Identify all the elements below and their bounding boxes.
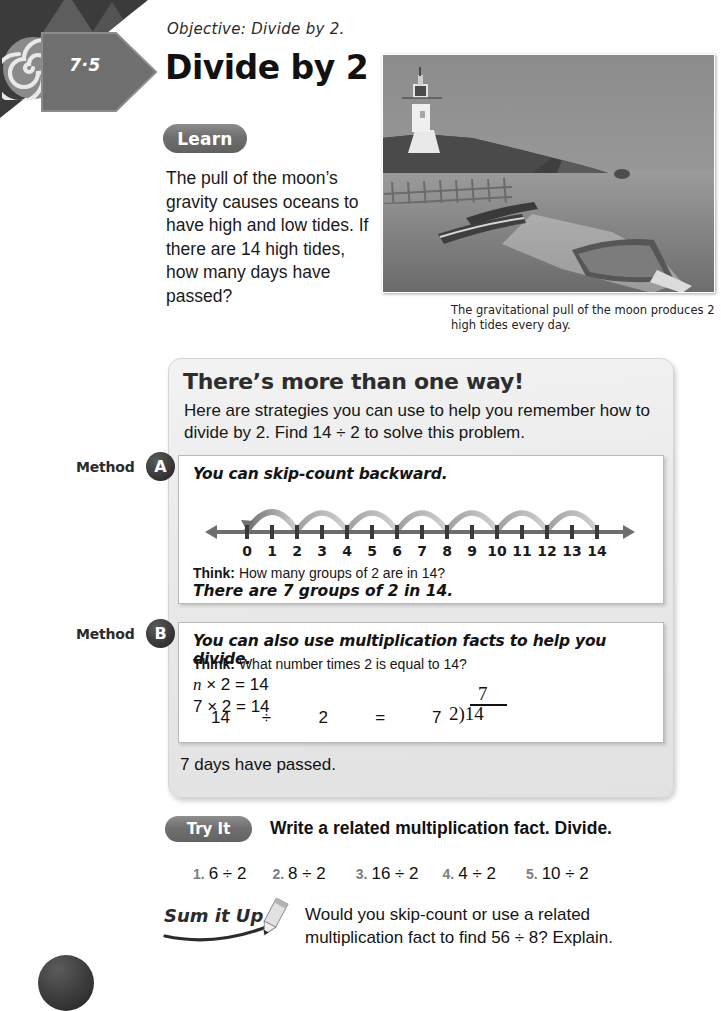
method-b-think-question: What number times 2 is equal to 14? [239, 656, 467, 672]
numberline-tick-2: 2 [292, 543, 302, 558]
method-b-think: Think: What number times 2 is equal to 1… [193, 656, 467, 672]
strategy-heading: There’s more than one way! [183, 369, 524, 394]
exercise-5-number: 5. [526, 866, 538, 882]
sentence-divisor: 2 [318, 708, 370, 728]
method-a-card: You can skip-count backward. [178, 455, 664, 604]
exercise-4-expression: 4 ÷ 2 [458, 864, 496, 883]
learn-badge: Learn [163, 124, 247, 153]
sum-it-up-logo-text: Sum it Up [164, 905, 263, 926]
strategy-answer: 7 days have passed. [180, 755, 336, 775]
numberline-tick-4: 4 [342, 543, 352, 558]
numberline-tick-8: 8 [442, 543, 452, 558]
exercise-4[interactable]: 4.4 ÷ 2 [443, 864, 496, 884]
numberline-tick-1: 1 [267, 543, 277, 558]
numberline-tick-12: 12 [537, 543, 556, 558]
numberline-tick-9: 9 [467, 543, 477, 558]
exercise-2-number: 2. [272, 866, 284, 882]
exercise-4-number: 4. [443, 866, 455, 882]
method-b-bullet: B [146, 619, 175, 648]
numberline-tick-10: 10 [487, 543, 507, 558]
method-a-label: Method [76, 459, 135, 475]
exercise-row: 1.6 ÷ 2 2.8 ÷ 2 3.16 ÷ 2 4.4 ÷ 2 5.10 ÷ … [193, 864, 663, 884]
exercise-5[interactable]: 5.10 ÷ 2 [526, 864, 589, 884]
sentence-dividend: 14 [211, 708, 257, 728]
exercise-1[interactable]: 1.6 ÷ 2 [193, 864, 246, 884]
method-a-think-question: How many groups of 2 are in 14? [239, 565, 445, 581]
objective-text: Objective: Divide by 2. [167, 20, 345, 38]
method-b-equation-1: n × 2 = 14 [193, 675, 269, 695]
sentence-operator: ÷ [262, 708, 314, 728]
numberline-tick-5: 5 [367, 543, 377, 558]
method-b-division-sentence: 14 ÷ 2 = 7 [211, 708, 472, 728]
method-b-think-label: Think: [193, 656, 235, 672]
method-a-think-label: Think: [193, 565, 235, 581]
page-title: Divide by 2 [165, 48, 368, 87]
numberline-tick-6: 6 [392, 543, 402, 558]
exercise-1-expression: 6 ÷ 2 [209, 864, 247, 883]
sentence-equals: = [375, 708, 427, 728]
method-b-card: You can also use multiplication facts to… [178, 622, 664, 743]
learn-paragraph: The pull of the moon’s gravity causes oc… [166, 167, 371, 308]
numberline-tick-14: 14 [587, 543, 607, 558]
photo-caption: The gravitational pull of the moon produ… [451, 303, 721, 333]
page-number-badge [38, 955, 94, 1011]
method-a-bullet: A [146, 452, 175, 481]
try-it-badge: Try It [165, 816, 252, 842]
exercise-5-expression: 10 ÷ 2 [542, 864, 589, 883]
exercise-2-expression: 8 ÷ 2 [288, 864, 326, 883]
exercise-3[interactable]: 3.16 ÷ 2 [356, 864, 419, 884]
method-b-label: Method [76, 626, 135, 642]
lesson-number: 7·5 [54, 55, 116, 75]
long-division-divisor-and-dividend: 2)14 [449, 703, 484, 725]
exercise-3-expression: 16 ÷ 2 [371, 864, 418, 883]
exercise-1-number: 1. [193, 866, 205, 882]
exercise-3-number: 3. [356, 866, 368, 882]
long-division-bar [470, 704, 507, 706]
try-it-instruction: Write a related multiplication fact. Div… [270, 818, 612, 839]
method-a-result: There are 7 groups of 2 in 14. [193, 582, 453, 600]
numberline-tick-3: 3 [317, 543, 327, 558]
sum-it-up-logo: Sum it Up [163, 898, 296, 942]
numberline-tick-13: 13 [562, 543, 581, 558]
numberline-tick-0: 0 [242, 543, 252, 558]
numberline-diagram: 0 1 2 3 4 5 6 7 8 9 10 11 12 13 14 [187, 488, 653, 558]
method-a-lead: You can skip-count backward. [193, 465, 447, 483]
equation-1-rest: × 2 = 14 [202, 675, 269, 694]
long-division-dividend: 14 [465, 703, 484, 724]
long-division-quotient: 7 [478, 683, 488, 705]
numberline-tick-11: 11 [512, 543, 531, 558]
long-division-divisor: 2 [449, 703, 459, 724]
numberline-tick-7: 7 [417, 543, 427, 558]
strategy-intro: Here are strategies you can use to help … [184, 400, 664, 444]
method-a-think: Think: How many groups of 2 are in 14? [193, 565, 445, 581]
variable-n: n [193, 675, 202, 694]
exercise-2[interactable]: 2.8 ÷ 2 [272, 864, 325, 884]
sum-it-up-question: Would you skip-count or use a related mu… [305, 903, 635, 949]
lighthouse-beach-photo [382, 54, 715, 293]
